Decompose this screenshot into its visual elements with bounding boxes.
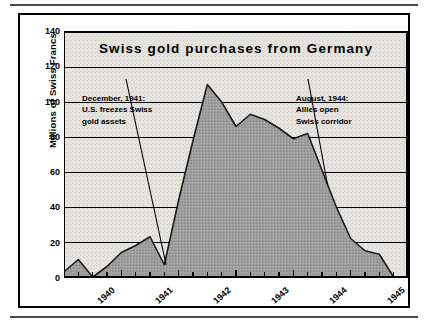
area-chart-svg <box>64 31 408 278</box>
x-tick-1944: 1944 <box>327 285 349 306</box>
annotation-december-1941: December, 1941: U.S. freezes Swiss gold … <box>82 93 152 127</box>
plot-area: Swiss gold purchases from Germany Decemb… <box>64 31 408 278</box>
annotation-line: Swiss corridor <box>296 116 352 127</box>
x-tick-1945: 1945 <box>385 285 407 306</box>
x-tick-1943: 1943 <box>269 285 291 306</box>
x-tick-1940: 1940 <box>95 285 117 306</box>
figure-page: Millions of Swiss Francs 140 120 100 80 … <box>0 0 428 324</box>
chart-title: Swiss gold purchases from Germany <box>64 41 408 56</box>
chart-frame: Millions of Swiss Francs 140 120 100 80 … <box>18 13 410 308</box>
y-tick-120: 120 <box>34 62 60 71</box>
annotation-august-1944: August, 1944: Allies open Swiss corridor <box>296 93 352 127</box>
annotation-line: Allies open <box>296 104 352 115</box>
y-tick-140: 140 <box>34 27 60 36</box>
y-tick-80: 80 <box>34 133 60 142</box>
x-axis-tick-labels: 1940 1941 1942 1943 1944 1945 <box>64 281 408 321</box>
annotation-line: August, 1944: <box>296 93 352 104</box>
y-tick-0: 0 <box>34 274 60 283</box>
x-tick-1942: 1942 <box>211 285 233 306</box>
annotation-line: gold assets <box>82 116 152 127</box>
y-tick-20: 20 <box>34 239 60 248</box>
y-tick-40: 40 <box>34 203 60 212</box>
y-tick-60: 60 <box>34 168 60 177</box>
annotation-line: U.S. freezes Swiss <box>82 104 152 115</box>
annotation-line: December, 1941: <box>82 93 152 104</box>
y-tick-100: 100 <box>34 98 60 107</box>
top-horizontal-rule <box>10 4 418 6</box>
x-tick-1941: 1941 <box>153 285 175 306</box>
y-axis-tick-labels: 140 120 100 80 60 40 20 0 <box>32 31 60 278</box>
